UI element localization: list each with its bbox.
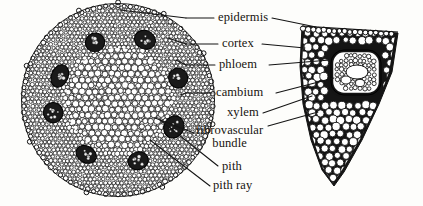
label-bundle-text: bundle xyxy=(196,137,263,150)
leader-cortex-right xyxy=(262,44,305,48)
label-fibrovascular-text: fibrovascular xyxy=(196,123,263,137)
label-epidermis: epidermis xyxy=(218,11,268,24)
xylem-vessel-small xyxy=(356,79,365,86)
magnified-wedge-drawing xyxy=(291,22,403,189)
label-xylem: xylem xyxy=(227,106,259,119)
label-phloem: phloem xyxy=(219,58,257,71)
figure-canvas: epidermis cortex phloem cambium xylem fi… xyxy=(0,0,423,206)
label-cortex-text: cortex xyxy=(222,36,254,50)
leader-epidermis-right xyxy=(272,18,316,27)
label-phloem-text: phloem xyxy=(219,57,257,71)
label-cambium: cambium xyxy=(216,86,263,99)
xylem-vessel-small xyxy=(341,76,351,84)
label-pith-text: pith xyxy=(222,159,242,173)
wedge-vascular-bundle xyxy=(331,50,381,95)
label-pith-ray-text: pith ray xyxy=(213,178,252,192)
label-fibrovascular-bundle: fibrovascular bundle xyxy=(196,124,263,149)
label-xylem-text: xylem xyxy=(227,105,259,119)
label-cambium-text: cambium xyxy=(216,85,263,99)
label-cortex: cortex xyxy=(222,37,254,50)
botanical-diagram xyxy=(0,0,423,206)
label-pith-ray: pith ray xyxy=(213,179,252,192)
label-pith: pith xyxy=(222,160,242,173)
label-epidermis-text: epidermis xyxy=(218,10,268,24)
